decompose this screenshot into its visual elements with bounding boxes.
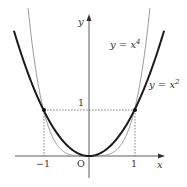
y-tick-label-1: 1 [78, 97, 84, 108]
label-y-equals-x4: y = x4 [109, 38, 141, 50]
x-axis-label: x [157, 159, 163, 170]
x-tick-label-neg1: −1 [36, 158, 50, 169]
intersection-point-right [133, 108, 137, 112]
label-y-equals-x2: y = x2 [148, 78, 180, 90]
y-axis-arrow-icon [87, 14, 92, 21]
x-axis-arrow-icon [158, 154, 165, 159]
origin-label: O [77, 158, 85, 169]
x-tick-label-1: 1 [131, 158, 137, 169]
y-axis-label: y [77, 16, 84, 27]
function-graph: y x O −1 1 1 y = x4 y = x2 [0, 0, 187, 187]
intersection-point-left [42, 108, 46, 112]
